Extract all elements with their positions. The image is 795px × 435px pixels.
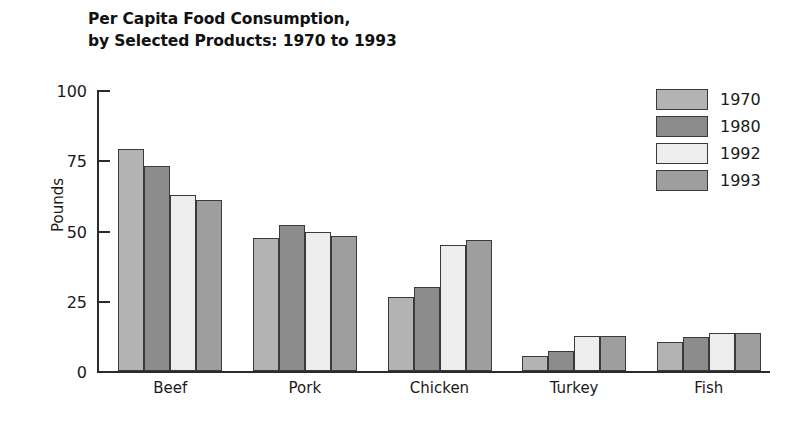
tick-mark xyxy=(99,371,110,373)
bar-group-turkey: Turkey xyxy=(522,90,626,371)
y-axis-title: Pounds xyxy=(49,145,67,265)
tick-label: 25 xyxy=(67,292,87,311)
bar-turkey-1993 xyxy=(600,336,626,371)
legend-item-1980: 1980 xyxy=(656,113,761,140)
x-axis-label-chicken: Chicken xyxy=(388,379,492,397)
bar-pork-1970 xyxy=(253,238,279,371)
bar-chicken-1970 xyxy=(388,297,414,371)
tick-mark xyxy=(99,301,110,303)
bar-group-pork: Pork xyxy=(253,90,357,371)
bar-beef-1970 xyxy=(118,149,144,371)
bar-beef-1993 xyxy=(196,200,222,371)
tick-label: 0 xyxy=(77,363,87,382)
x-axis-line xyxy=(97,371,770,373)
bar-pork-1992 xyxy=(305,232,331,371)
x-axis-label-pork: Pork xyxy=(253,379,357,397)
tick-label: 75 xyxy=(67,152,87,171)
bar-turkey-1992 xyxy=(574,336,600,371)
bar-fish-1970 xyxy=(657,342,683,372)
bar-fish-1993 xyxy=(735,333,761,371)
legend-swatch-1992 xyxy=(656,143,708,164)
bar-chicken-1980 xyxy=(414,287,440,371)
legend-swatch-1993 xyxy=(656,170,708,191)
x-axis-label-turkey: Turkey xyxy=(522,379,626,397)
tick-mark xyxy=(99,231,110,233)
bar-pork-1980 xyxy=(279,225,305,371)
x-axis-label-fish: Fish xyxy=(657,379,761,397)
legend-item-1970: 1970 xyxy=(656,86,761,113)
tick-label: 100 xyxy=(56,82,87,101)
bar-fish-1992 xyxy=(709,333,735,371)
chart-title: Per Capita Food Consumption, by Selected… xyxy=(88,8,608,52)
tick-label: 50 xyxy=(67,222,87,241)
legend-label-1992: 1992 xyxy=(720,144,761,163)
bar-group-beef: Beef xyxy=(118,90,222,371)
legend-label-1993: 1993 xyxy=(720,171,761,190)
bar-turkey-1970 xyxy=(522,356,548,371)
legend-item-1993: 1993 xyxy=(656,167,761,194)
bar-chart-figure: Per Capita Food Consumption, by Selected… xyxy=(0,0,795,435)
legend-label-1980: 1980 xyxy=(720,117,761,136)
legend-swatch-1970 xyxy=(656,89,708,110)
bar-pork-1993 xyxy=(331,236,357,371)
legend-swatch-1980 xyxy=(656,116,708,137)
x-axis-label-beef: Beef xyxy=(118,379,222,397)
bar-group-chicken: Chicken xyxy=(388,90,492,371)
tick-mark xyxy=(99,160,110,162)
tick-mark xyxy=(99,90,110,92)
bar-fish-1980 xyxy=(683,337,709,371)
legend-item-1992: 1992 xyxy=(656,140,761,167)
bar-beef-1980 xyxy=(144,166,170,371)
bar-beef-1992 xyxy=(170,195,196,371)
legend-label-1970: 1970 xyxy=(720,90,761,109)
bar-chicken-1993 xyxy=(466,240,492,371)
bar-turkey-1980 xyxy=(548,351,574,371)
chart-legend: 1970198019921993 xyxy=(656,86,761,194)
bar-chicken-1992 xyxy=(440,245,466,371)
